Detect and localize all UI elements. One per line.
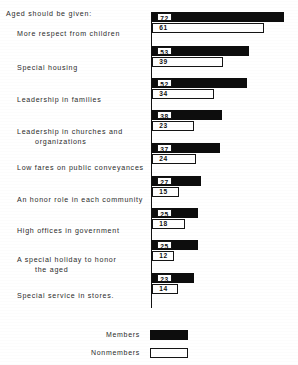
- bar-group: 2512: [151, 240, 298, 264]
- bar-value-nonmembers: 24: [156, 155, 171, 163]
- bar-members: 23: [152, 273, 194, 283]
- chart-legend: Members Nonmembers: [0, 326, 298, 364]
- bar-value-members: 52: [157, 79, 172, 87]
- bar-value-members: 27: [157, 177, 172, 185]
- bar-members: 25: [152, 240, 198, 250]
- plot-area: 726153395234382337242715251825122314: [151, 12, 298, 308]
- category-label-1-line-0: Special housing: [17, 64, 78, 72]
- bar-nonmembers: 34: [152, 89, 214, 99]
- category-label-3: Leadership in churches and organizations: [17, 128, 123, 147]
- category-label-7: A special holiday to honor the aged: [17, 256, 117, 275]
- bar-value-nonmembers: 15: [156, 188, 171, 196]
- category-label-column: More respect from children Special housi…: [0, 0, 150, 365]
- bar-group: 2518: [151, 208, 298, 232]
- bar-nonmembers: 14: [152, 284, 178, 294]
- bar-value-nonmembers: 39: [156, 58, 171, 66]
- bar-value-members: 37: [157, 144, 172, 152]
- bar-value-nonmembers: 61: [156, 24, 171, 32]
- category-label-8-line-0: Special service in stores.: [17, 292, 114, 300]
- bar-nonmembers: 39: [152, 57, 223, 67]
- category-label-1: Special housing: [17, 64, 78, 74]
- legend-swatch-nonmembers: [150, 348, 188, 358]
- bar-members: 53: [152, 46, 249, 56]
- bar-group: 5234: [151, 78, 298, 102]
- bar-value-members: 25: [157, 209, 172, 217]
- category-label-8: Special service in stores.: [17, 292, 114, 302]
- bar-value-members: 38: [157, 111, 172, 119]
- category-label-6: High offices in government: [17, 227, 120, 237]
- bar-value-nonmembers: 12: [156, 252, 171, 260]
- category-label-5: An honor role in each community: [17, 196, 143, 206]
- category-label-3-line-1: organizations: [17, 138, 123, 148]
- bar-value-nonmembers: 18: [156, 220, 171, 228]
- bar-nonmembers: 18: [152, 219, 185, 229]
- bar-members: 52: [152, 78, 247, 88]
- bar-group: 2314: [151, 273, 298, 297]
- bar-nonmembers: 23: [152, 121, 194, 131]
- bar-group: 3724: [151, 143, 298, 167]
- bar-nonmembers: 24: [152, 154, 196, 164]
- bar-nonmembers: 12: [152, 251, 174, 261]
- legend-swatch-members: [150, 330, 188, 340]
- bar-group: 5339: [151, 46, 298, 70]
- bar-value-members: 25: [157, 241, 172, 249]
- bar-value-nonmembers: 34: [156, 90, 171, 98]
- bar-value-members: 23: [157, 274, 172, 282]
- bar-members: 37: [152, 143, 220, 153]
- legend-item-nonmembers: Nonmembers: [62, 348, 188, 360]
- category-label-3-line-0: Leadership in churches and: [17, 128, 123, 136]
- legend-label-nonmembers: Nonmembers: [91, 349, 140, 356]
- category-label-7-line-0: A special holiday to honor: [17, 256, 117, 264]
- bar-nonmembers: 61: [152, 23, 264, 33]
- category-label-6-line-0: High offices in government: [17, 227, 120, 235]
- bar-group: 7261: [151, 12, 298, 36]
- bar-nonmembers: 15: [152, 187, 179, 197]
- bar-members: 25: [152, 208, 198, 218]
- legend-item-members: Members: [76, 330, 188, 342]
- bar-value-members: 72: [157, 13, 172, 21]
- legend-label-members: Members: [106, 331, 140, 338]
- category-label-5-line-0: An honor role in each community: [17, 196, 143, 204]
- category-label-2-line-0: Leadership in families: [17, 96, 101, 104]
- bar-group: 3823: [151, 110, 298, 134]
- bar-value-nonmembers: 23: [156, 122, 171, 130]
- category-label-0-line-0: More respect from children: [17, 30, 120, 38]
- bar-members: 27: [152, 176, 201, 186]
- bar-value-members: 53: [157, 47, 172, 55]
- category-label-4-line-0: Low fares on public conveyances: [17, 164, 144, 172]
- bar-group: 2715: [151, 176, 298, 200]
- category-label-2: Leadership in families: [17, 96, 101, 106]
- bar-value-nonmembers: 14: [156, 285, 171, 293]
- category-label-4: Low fares on public conveyances: [17, 164, 144, 174]
- bar-chart: Aged should be given: More respect from …: [0, 0, 298, 365]
- category-label-7-line-1: the aged: [17, 266, 117, 276]
- category-label-0: More respect from children: [17, 30, 120, 40]
- bar-members: 38: [152, 110, 222, 120]
- bar-members: 72: [152, 12, 284, 22]
